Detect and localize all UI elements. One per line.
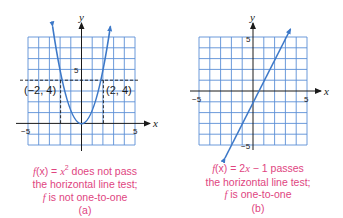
caption-b: f(x) = 2x − 1 passes the horizontal line…	[178, 162, 338, 214]
graph-a-point-right-label: (2, 4)	[106, 84, 132, 96]
graph-a-x-label: x	[152, 117, 158, 129]
graph-a-point-left-label: (−2, 4)	[24, 84, 56, 96]
graph-a: y x −5 5 5 (−2, 4) (2, 4)	[16, 11, 158, 151]
caption-a-line3: f is not one-to-one	[5, 191, 165, 205]
graph-b-tick-y-neg: −5	[241, 142, 251, 151]
caption-a-line3-rest: is not one-to-one	[46, 191, 128, 203]
caption-a-label: (a)	[5, 204, 165, 217]
caption-b-line1: f(x) = 2x − 1 passes	[178, 162, 338, 176]
graph-a-tick-x-neg: −5	[21, 127, 31, 136]
graph-b: y x −5 5 5 −5	[190, 11, 329, 158]
graph-b-x-label: x	[323, 85, 329, 97]
caption-a-line1: f(x) = x2 does not pass	[5, 162, 165, 178]
caption-a-fx-arg: (x) =	[36, 165, 60, 177]
caption-b-line3-rest: is one-to-one	[227, 188, 291, 200]
caption-b-line2: the horizontal line test;	[178, 176, 338, 189]
graph-a-y-label: y	[78, 11, 84, 23]
caption-a-line2: the horizontal line test;	[5, 178, 165, 191]
caption-b-label: (b)	[178, 202, 338, 215]
graph-b-tick-x-neg: −5	[192, 95, 202, 104]
graph-b-tick-y-pos: 5	[246, 35, 251, 44]
graph-a-tick-y-pos: 5	[74, 66, 79, 75]
caption-b-line1-rest: − 1 passes	[250, 162, 304, 174]
caption-b-line3: f is one-to-one	[178, 188, 338, 202]
graph-b-y-label: y	[249, 11, 255, 23]
graph-b-tick-x-pos: 5	[304, 95, 309, 104]
caption-a-line1-rest: does not pass	[69, 165, 137, 177]
graph-a-tick-x-pos: 5	[133, 127, 138, 136]
caption-a: f(x) = x2 does not pass the horizontal l…	[5, 162, 165, 217]
graph-b-line	[225, 29, 291, 158]
caption-b-fx-arg: (x) = 2	[215, 162, 245, 174]
